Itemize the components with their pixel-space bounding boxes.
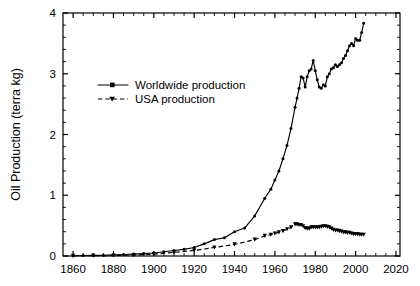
data-point-worldwide-1971: [296, 97, 299, 100]
data-point-worldwide-1910: [172, 249, 175, 252]
data-point-worldwide-1997: [348, 44, 351, 47]
data-point-worldwide-1865: [82, 254, 85, 257]
y-tick-label-0: 0: [50, 250, 56, 262]
data-point-worldwide-1999: [352, 44, 355, 47]
data-point-worldwide-1945: [243, 227, 246, 230]
data-point-worldwide-2003: [360, 31, 363, 34]
plot-frame: [63, 13, 400, 256]
series-line-worldwide-production: [73, 23, 364, 255]
data-point-worldwide-1976: [306, 75, 309, 78]
x-tick-label-1940: 1940: [222, 263, 248, 275]
legend-label-usa: USA production: [135, 93, 215, 105]
data-point-worldwide-1985: [324, 84, 327, 87]
data-point-worldwide-1915: [183, 248, 186, 251]
data-point-worldwide-1972: [298, 87, 301, 90]
x-tick-label-1980: 1980: [302, 263, 328, 275]
data-point-worldwide-1895: [142, 252, 145, 255]
x-tick-label-2000: 2000: [343, 263, 369, 275]
data-point-worldwide-1962: [277, 169, 280, 172]
data-point-worldwide-1986: [326, 75, 329, 78]
data-point-worldwide-1968: [290, 127, 293, 130]
x-tick-label-1920: 1920: [181, 263, 207, 275]
data-series-layer: [71, 22, 366, 258]
legend-swatch-marker-worldwide: [110, 83, 115, 88]
data-point-worldwide-1935: [223, 236, 226, 239]
series-markers-worldwide-production: [72, 22, 366, 257]
data-point-worldwide-1880: [112, 253, 115, 256]
data-point-worldwide-1983: [320, 87, 323, 90]
data-point-worldwide-1974: [302, 77, 305, 80]
data-point-worldwide-1980: [314, 69, 317, 72]
data-point-worldwide-1955: [263, 197, 266, 200]
x-tick-label-2020: 2020: [383, 263, 409, 275]
y-tick-label-4: 4: [50, 7, 57, 19]
data-point-worldwide-2004: [362, 22, 365, 25]
x-axis-tick-labels: 186018801900192019401960198020002020: [60, 263, 408, 275]
y-axis-minor-ticks: [63, 25, 400, 244]
chart-legend: Worldwide production USA production: [98, 79, 245, 105]
x-tick-label-1960: 1960: [262, 263, 288, 275]
y-tick-label-3: 3: [50, 68, 56, 80]
data-point-worldwide-1920: [193, 246, 196, 249]
data-point-worldwide-1989: [332, 66, 335, 69]
data-point-usa-1964: [281, 229, 285, 233]
data-point-worldwide-1860: [72, 254, 75, 257]
data-point-worldwide-1930: [213, 238, 216, 241]
y-axis-tick-labels: 01234: [50, 7, 57, 262]
oil-production-chart-figure: 186018801900192019401960198020002020 012…: [0, 0, 420, 286]
x-tick-label-1860: 1860: [60, 263, 86, 275]
data-point-worldwide-1940: [233, 230, 236, 233]
data-point-worldwide-1960: [273, 179, 276, 182]
data-point-worldwide-1981: [316, 78, 319, 81]
y-axis-title: Oil Production (terra kg): [9, 68, 23, 201]
x-tick-label-1900: 1900: [141, 263, 167, 275]
data-point-worldwide-1979: [312, 59, 315, 62]
y-tick-label-2: 2: [50, 129, 56, 141]
data-point-worldwide-1885: [122, 253, 125, 256]
chart-canvas: 186018801900192019401960198020002020 012…: [0, 0, 420, 286]
data-point-worldwide-1958: [269, 188, 272, 191]
data-point-worldwide-1890: [132, 253, 135, 256]
data-point-worldwide-1964: [281, 157, 284, 160]
data-point-worldwide-1925: [203, 242, 206, 245]
series-markers-usa-production: [71, 222, 366, 258]
series-line-usa-production: [73, 224, 364, 255]
data-point-worldwide-1993: [340, 61, 343, 64]
data-point-worldwide-1996: [346, 49, 349, 52]
data-point-worldwide-1995: [344, 54, 347, 57]
data-point-worldwide-1994: [342, 57, 345, 60]
data-point-worldwide-1870: [92, 254, 95, 257]
data-point-worldwide-1875: [102, 254, 105, 257]
data-point-worldwide-1900: [152, 251, 155, 254]
data-point-worldwide-2002: [358, 39, 361, 42]
legend-label-worldwide: Worldwide production: [135, 79, 245, 91]
x-tick-label-1880: 1880: [101, 263, 127, 275]
data-point-worldwide-1998: [350, 42, 353, 45]
data-point-worldwide-1975: [304, 86, 307, 89]
x-axis-minor-ticks: [83, 13, 386, 256]
data-point-worldwide-1950: [253, 214, 256, 217]
y-axis-major-ticks: [63, 13, 400, 256]
data-point-worldwide-1905: [162, 250, 165, 253]
data-point-usa-1968: [289, 225, 293, 229]
data-point-usa-1966: [285, 227, 289, 231]
data-point-worldwide-1987: [328, 72, 331, 75]
data-point-worldwide-1970: [294, 106, 297, 109]
data-point-worldwide-1966: [285, 144, 288, 147]
y-tick-label-1: 1: [50, 189, 56, 201]
axes-border: [63, 13, 400, 256]
data-point-worldwide-1978: [310, 67, 313, 70]
